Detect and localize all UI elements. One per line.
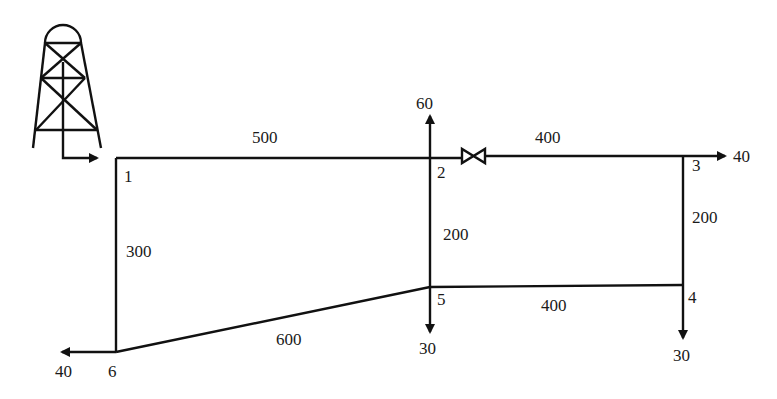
pipe-length-3-4: 200: [692, 208, 718, 227]
node-label-3: 3: [692, 156, 701, 175]
demand-label-2: 60: [416, 94, 433, 113]
valve-icon: [462, 149, 485, 163]
pipe-length-6-5: 600: [276, 330, 302, 349]
node-label-6: 6: [108, 362, 117, 381]
node-label-4: 4: [688, 288, 697, 307]
pipe-5-4: [430, 285, 683, 287]
demand-label-3: 40: [733, 147, 750, 166]
pipe-length-5-4: 400: [541, 296, 567, 315]
pipe-6-5: [116, 287, 430, 352]
pipe-length-1-6: 300: [126, 242, 152, 261]
pipe-length-1-2: 500: [252, 128, 278, 147]
pipe-length-2-3: 400: [535, 128, 561, 147]
node-label-5: 5: [437, 290, 446, 309]
node-label-2: 2: [437, 163, 446, 182]
node-label-1: 1: [124, 167, 133, 186]
demand-label-4: 30: [673, 346, 690, 365]
pipe-length-2-5: 200: [443, 225, 469, 244]
pipe-network-diagram: 1 2 3 4 5 6 500 400 200 200 400 300 600 …: [0, 0, 777, 399]
demand-label-5: 30: [419, 339, 436, 358]
water-tower-icon: [33, 25, 101, 158]
demand-label-6: 40: [55, 362, 72, 381]
